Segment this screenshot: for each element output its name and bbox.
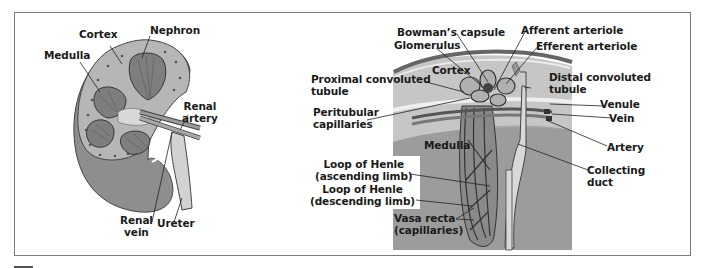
label-collecting-line1: Collecting	[587, 164, 645, 176]
label-ureter: Ureter	[157, 218, 195, 230]
label-peritubular-line2: capillaries	[313, 118, 373, 130]
label-peritubular-capillaries: Peritubular capillaries	[313, 107, 379, 130]
label-glomerulus: Glomerulus	[394, 40, 460, 52]
label-distal-convoluted-tubule: Distal convoluted tubule	[549, 72, 651, 95]
label-afferent-arteriole: Afferent arteriole	[521, 25, 623, 37]
label-distal-line1: Distal convoluted	[549, 71, 651, 83]
label-vein: Vein	[609, 113, 634, 125]
label-cortex-nephron: Cortex	[432, 65, 470, 77]
label-renal-artery: Renal artery	[182, 101, 218, 124]
label-vasa-recta: Vasa recta (capillaries)	[394, 213, 463, 236]
label-renal-artery-line1: Renal	[183, 100, 216, 112]
label-cortex-kidney: Cortex	[79, 29, 117, 41]
label-proximal-line2: tubule	[311, 85, 349, 97]
label-peritubular-line1: Peritubular	[313, 106, 379, 118]
label-vasa-line1: Vasa recta	[394, 212, 455, 224]
kidney-illustration	[74, 40, 200, 212]
label-artery: Artery	[607, 142, 644, 154]
label-renal-vein-line1: Renal	[120, 214, 153, 226]
label-proximal-convoluted-tubule: Proximal convoluted tubule	[311, 74, 431, 97]
label-medulla-kidney: Medulla	[44, 50, 90, 62]
label-loop-desc-line2: (descending limb)	[310, 195, 415, 207]
label-proximal-line1: Proximal convoluted	[311, 73, 431, 85]
label-vasa-line2: (capillaries)	[394, 224, 463, 236]
label-venule: Venule	[600, 99, 640, 111]
label-collecting-line2: duct	[587, 176, 613, 188]
label-renal-vein: Renal vein	[120, 215, 153, 238]
label-loop-of-henle-ascending: Loop of Henle (ascending limb)	[315, 159, 413, 182]
label-loop-of-henle-descending: Loop of Henle (descending limb)	[310, 184, 415, 207]
label-loop-asc-line1: Loop of Henle	[324, 158, 405, 170]
label-renal-artery-line2: artery	[182, 112, 218, 124]
label-loop-asc-line2: (ascending limb)	[315, 170, 413, 182]
label-renal-vein-line2: vein	[124, 226, 149, 238]
label-collecting-duct: Collecting duct	[587, 165, 645, 188]
label-distal-line2: tubule	[549, 83, 587, 95]
label-nephron: Nephron	[150, 25, 200, 37]
label-efferent-arteriole: Efferent arteriole	[536, 41, 637, 53]
label-loop-desc-line1: Loop of Henle	[322, 183, 403, 195]
label-bowmans-capsule: Bowman’s capsule	[397, 27, 505, 39]
label-medulla-nephron: Medulla	[424, 140, 470, 152]
